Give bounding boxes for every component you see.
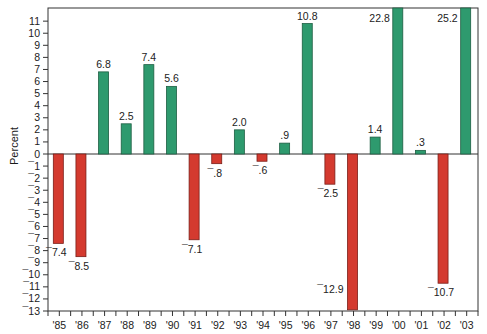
x-tick-label: '99 <box>369 319 383 331</box>
x-tick-label: '00 <box>392 319 406 331</box>
negative-bar <box>212 154 222 164</box>
x-tick-label: '97 <box>324 319 338 331</box>
negative-bar <box>189 154 199 240</box>
data-label: ¯8.5 <box>68 260 90 272</box>
data-label: ¯.6 <box>252 164 268 176</box>
positive-bar <box>461 8 471 154</box>
bar-chart: 11109876543210¯1¯2¯3¯4¯5¯6¯7¯8¯9¯10¯11¯1… <box>0 0 487 334</box>
y-tick-label: ¯4 <box>27 196 40 208</box>
y-tick-label: 9 <box>34 39 40 51</box>
positive-bar <box>144 65 154 154</box>
positive-bar <box>234 130 244 154</box>
y-tick-label: ¯8 <box>27 244 40 256</box>
y-tick-label: ¯11 <box>22 280 40 292</box>
y-tick-label: 5 <box>34 87 40 99</box>
x-tick-label: '93 <box>234 319 248 331</box>
positive-bar <box>370 137 380 154</box>
data-label: ¯.8 <box>206 167 222 179</box>
x-tick-label: '85 <box>52 319 66 331</box>
y-tick-label: ¯1 <box>27 160 40 172</box>
y-tick-label: 7 <box>34 63 40 75</box>
y-axis-label: Percent <box>8 124 20 168</box>
x-tick-label: '86 <box>75 319 89 331</box>
positive-bar <box>99 72 109 154</box>
data-label: ¯10.7 <box>427 286 454 298</box>
data-label: 22.8 <box>369 12 390 24</box>
data-label: ¯7.1 <box>181 243 203 255</box>
data-label: 7.4 <box>142 51 157 63</box>
x-tick-label: '01 <box>415 319 429 331</box>
x-tick-label: '87 <box>98 319 112 331</box>
y-tick-label: 8 <box>34 51 40 63</box>
x-tick-label: '91 <box>188 319 202 331</box>
data-label: .9 <box>280 129 289 141</box>
x-tick-label: '02 <box>437 319 451 331</box>
y-tick-label: ¯7 <box>27 232 40 244</box>
x-tick-label: '92 <box>211 319 225 331</box>
positive-bar <box>166 86 176 154</box>
y-tick-label: 1 <box>34 135 40 147</box>
x-tick-label: '96 <box>301 319 315 331</box>
negative-bar <box>257 154 267 161</box>
data-label: 2.0 <box>232 116 247 128</box>
data-label: 6.8 <box>96 58 111 70</box>
data-label: 1.4 <box>368 123 383 135</box>
positive-bar <box>302 24 312 154</box>
x-tick-label: '90 <box>166 319 180 331</box>
data-label: ¯7.4 <box>45 246 67 258</box>
y-tick-label: 10 <box>28 27 40 39</box>
negative-bar <box>348 154 358 310</box>
negative-bar <box>53 154 63 243</box>
negative-bar <box>438 154 448 283</box>
y-tick-label: ¯6 <box>27 220 40 232</box>
chart-canvas: 11109876543210¯1¯2¯3¯4¯5¯6¯7¯8¯9¯10¯11¯1… <box>0 0 487 334</box>
y-tick-label: 6 <box>34 75 40 87</box>
data-label: ¯2.5 <box>317 187 339 199</box>
data-label: 25.2 <box>437 12 458 24</box>
positive-bar <box>121 124 131 154</box>
x-tick-label: '94 <box>256 319 270 331</box>
y-tick-label: 11 <box>29 15 40 27</box>
negative-bar <box>325 154 335 184</box>
x-tick-label: '88 <box>120 319 134 331</box>
x-tick-label: '89 <box>143 319 157 331</box>
positive-bar <box>415 150 425 154</box>
y-tick-label: ¯12 <box>22 292 41 304</box>
positive-bar <box>280 143 290 154</box>
x-tick-label: '03 <box>460 319 474 331</box>
data-label: .3 <box>416 136 425 148</box>
y-tick-label: ¯10 <box>22 268 41 280</box>
y-tick-label: ¯13 <box>22 305 41 317</box>
y-tick-label: ¯2 <box>27 172 40 184</box>
data-label: ¯12.9 <box>316 283 343 295</box>
y-tick-label: ¯5 <box>27 208 40 220</box>
y-tick-label: 2 <box>34 123 40 135</box>
y-tick-label: 3 <box>34 111 40 123</box>
y-tick-label: ¯3 <box>27 184 40 196</box>
data-label: 5.6 <box>164 72 179 84</box>
y-tick-label: 4 <box>34 99 40 111</box>
data-label: 2.5 <box>119 110 134 122</box>
x-tick-label: '98 <box>347 319 361 331</box>
y-tick-label: ¯9 <box>27 256 40 268</box>
positive-bar <box>393 8 403 154</box>
x-tick-label: '95 <box>279 319 293 331</box>
negative-bar <box>76 154 86 257</box>
y-tick-label: 0 <box>34 148 40 160</box>
data-label: 10.8 <box>297 10 318 22</box>
